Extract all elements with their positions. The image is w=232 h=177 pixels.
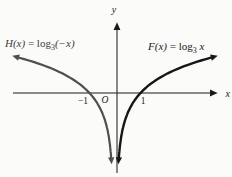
graph-svg: y x O −1 1 H(x) = log3(−x) F(x) = log3 x [0, 0, 232, 177]
f-function-label: F(x) = log3 x [147, 40, 204, 55]
f-label-eq: = log [167, 40, 193, 52]
curve-arrowhead [210, 55, 218, 61]
y-axis-label: y [111, 4, 117, 15]
h-label-arg: (−x) [55, 37, 75, 50]
h-curve [19, 58, 111, 158]
origin-label: O [102, 95, 109, 105]
curve-arrowhead [12, 55, 20, 61]
tick-label-1: 1 [141, 96, 146, 106]
h-label-eq: = log [25, 37, 51, 49]
f-label-name: F(x) [147, 40, 167, 53]
f-curve [119, 58, 211, 158]
f-label-arg: x [197, 40, 205, 52]
x-axis-label: x [225, 88, 231, 99]
h-function-label: H(x) = log3(−x) [4, 37, 75, 52]
h-label-name: H(x) [4, 37, 25, 50]
tick-label-minus-1: −1 [78, 96, 88, 106]
curve-arrowhead [108, 157, 114, 164]
figure: y x O −1 1 H(x) = log3(−x) F(x) = log3 x [0, 0, 232, 177]
